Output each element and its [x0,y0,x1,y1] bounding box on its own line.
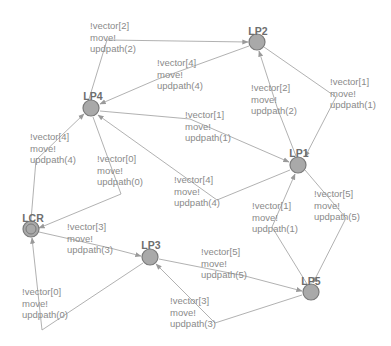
edge-label-line: updpath(0) [97,176,143,188]
edge-label-line: move! [174,186,220,198]
edge-label-line: !vector[5] [201,246,247,258]
state-diagram-canvas: LP2 LP4 LP1 LCR LP3 LP5 !vector[2] move!… [0,0,391,346]
edge-label-lp4-lcr: !vector[0] move! updpath(0) [97,153,143,188]
edge-label-line: move! [251,94,297,106]
node-label-lp1: LP1 [289,148,308,159]
edge-label-lp1-lp4: !vector[4] move! updpath(4) [174,174,220,209]
node-lp4[interactable] [83,100,99,116]
edge-label-line: !vector[1] [185,109,231,121]
edge-label-line: !vector[3] [170,295,216,307]
edge-lcr-to-lp4[interactable] [31,114,84,220]
node-label-lp4: LP4 [83,91,102,102]
edge-label-lp5-lp1: !vector[1] move! updpath(1) [252,200,298,235]
edge-label-line: move! [201,258,247,270]
edge-label-line: move! [314,200,360,212]
edge-label-line: !vector[2] [251,82,297,94]
edge-label-lp2-lp1: !vector[1] move! updpath(1) [330,76,376,111]
edge-label-line: updpath(1) [330,99,376,111]
edge-label-line: updpath(4) [30,154,76,166]
edge-label-line: !vector[5] [314,188,360,200]
edge-label-line: move! [330,88,376,100]
edge-label-line: move! [67,233,113,245]
edge-label-lp1-lp5: !vector[5] move! updpath(5) [314,188,360,223]
edge-label-line: move! [170,307,216,319]
edge-label-line: !vector[4] [30,131,76,143]
edge-label-line: updpath(5) [314,211,360,223]
edge-label-line: updpath(2) [251,105,297,117]
edge-label-lp3-lcr: !vector[0] move! updpath(0) [22,286,68,321]
edge-label-lp1-lp2: !vector[2] move! updpath(2) [251,82,297,117]
edge-label-line: updpath(1) [252,223,298,235]
edge-label-line: updpath(4) [157,80,203,92]
edge-label-line: updpath(4) [174,197,220,209]
node-lp3[interactable] [142,249,158,265]
edge-label-line: move! [30,143,76,155]
edge-label-line: updpath(2) [90,43,136,55]
node-label-lp2: LP2 [248,26,267,37]
edge-label-lcr-lp3: !vector[3] move! updpath(3) [67,221,113,256]
edge-lp1-to-lp5[interactable] [305,170,346,283]
edge-label-lp2-lp4: !vector[4] move! updpath(4) [157,57,203,92]
edge-label-lp4-lp2: !vector[2] move! updpath(2) [90,20,136,55]
edge-label-line: updpath(3) [67,244,113,256]
node-label-lp5: LP5 [301,276,320,287]
edge-label-line: !vector[4] [174,174,220,186]
edge-label-line: updpath(5) [201,269,247,281]
edge-label-line: !vector[1] [252,200,298,212]
edge-label-lcr-lp4: !vector[4] move! updpath(4) [30,131,76,166]
edge-label-line: move! [22,298,68,310]
edge-label-line: !vector[0] [22,286,68,298]
edge-label-lp3-lp5: !vector[5] move! updpath(5) [201,246,247,281]
edge-label-line: move! [90,32,136,44]
edge-label-line: !vector[4] [157,57,203,69]
edge-label-lp5-lp3: !vector[3] move! updpath(3) [170,295,216,330]
edge-label-line: updpath(3) [170,318,216,330]
edge-label-line: !vector[3] [67,221,113,233]
edge-label-line: updpath(0) [22,309,68,321]
node-label-lcr: LCR [22,213,44,224]
edge-label-lp4-lp1: !vector[1] move! updpath(1) [185,109,231,144]
edge-label-line: !vector[0] [97,153,143,165]
node-label-lp3: LP3 [141,240,160,251]
edge-label-line: move! [252,212,298,224]
edge-label-line: move! [157,69,203,81]
edge-label-line: !vector[1] [330,76,376,88]
edge-label-line: move! [97,165,143,177]
edge-label-line: move! [185,121,231,133]
edge-label-line: !vector[2] [90,20,136,32]
node-lp1[interactable] [290,157,306,173]
edge-label-line: updpath(1) [185,132,231,144]
